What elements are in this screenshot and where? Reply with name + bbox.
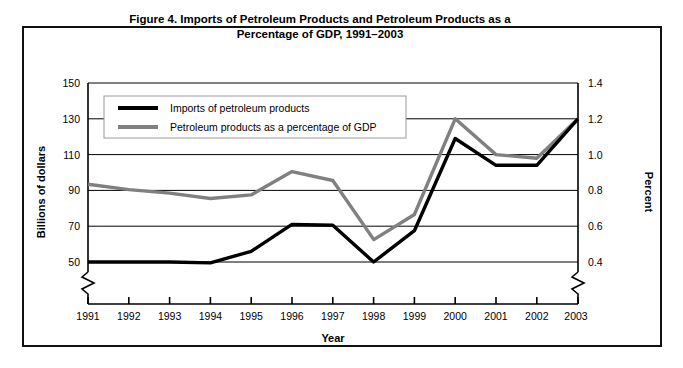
x-tick-label-1999: 1999: [403, 310, 427, 322]
x-tick-label-1992: 1992: [117, 310, 141, 322]
left-axis-title: Billions of dollars: [35, 146, 47, 238]
bottom-axis-title: Year: [321, 332, 345, 344]
left-tick-label-70: 70: [68, 220, 80, 232]
x-tick-label-2003: 2003: [564, 310, 588, 322]
x-axis: [88, 297, 578, 304]
left-tick-label-130: 130: [62, 113, 80, 125]
x-tick-label-1996: 1996: [280, 310, 304, 322]
x-tick-label-2001: 2001: [484, 310, 508, 322]
right-tick-label-0-6: 0.6: [588, 220, 603, 232]
legend-label-imports: Imports of petroleum products: [170, 102, 309, 114]
x-tick-label-1991: 1991: [76, 310, 100, 322]
legend-label-pct-gdp: Petroleum products as a percentage of GD…: [170, 121, 377, 133]
left-tick-label-110: 110: [63, 149, 80, 161]
right-tick-label-0-4: 0.4: [588, 256, 603, 268]
legend: Imports of petroleum products Petroleum …: [104, 96, 406, 138]
left-axis: [82, 83, 94, 304]
x-tick-label-1993: 1993: [158, 310, 182, 322]
right-tick-label-1-2: 1.2: [588, 113, 603, 125]
right-tick-label-1-0: 1.0: [588, 149, 603, 161]
left-tick-labels: 150 130 110 90 70 50: [62, 77, 80, 268]
x-tick-labels: 1991 1992 1993 1994 1995 1996 1997 1998 …: [76, 310, 588, 322]
right-axis-title: Percent: [643, 172, 655, 213]
x-tick-label-1997: 1997: [321, 310, 345, 322]
right-tick-label-1-4: 1.4: [588, 77, 603, 89]
chart-plot: 150 130 110 90 70 50 1.4 1.2 1.0 0.8 0.6…: [0, 0, 683, 368]
x-tick-label-2002: 2002: [525, 310, 549, 322]
right-tick-label-0-8: 0.8: [588, 184, 603, 196]
x-tick-label-1998: 1998: [362, 310, 386, 322]
left-tick-label-50: 50: [68, 256, 80, 268]
x-tick-label-1994: 1994: [199, 310, 223, 322]
right-tick-labels: 1.4 1.2 1.0 0.8 0.6 0.4: [588, 77, 603, 268]
left-tick-label-90: 90: [68, 184, 80, 196]
right-axis: [572, 83, 584, 304]
left-tick-label-150: 150: [62, 77, 80, 89]
x-tick-label-1995: 1995: [240, 310, 264, 322]
x-tick-label-2000: 2000: [444, 310, 468, 322]
